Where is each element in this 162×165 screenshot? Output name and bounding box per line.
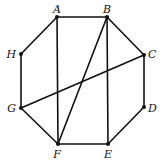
octagon-graph-diagram: ABCDEFGH (0, 0, 162, 165)
vertex-a-label: A (52, 3, 61, 16)
vertex-c-dot (142, 53, 146, 57)
vertex-g-dot (19, 106, 23, 110)
vertex-d-label: D (147, 102, 157, 115)
vertex-b-label: B (102, 3, 111, 16)
edge-g-c (21, 55, 144, 108)
vertex-f-dot (56, 142, 60, 146)
vertex-d-dot (142, 105, 146, 109)
edge-f-g (21, 108, 58, 144)
edge-h-a (21, 17, 57, 54)
edge-a-f (57, 17, 58, 144)
vertex-h-label: H (5, 48, 16, 61)
edge-d-e (108, 107, 144, 144)
edge-b-f (58, 17, 107, 144)
vertex-f-label: F (52, 148, 61, 161)
vertex-g-label: G (7, 102, 16, 115)
vertex-c-label: C (148, 48, 157, 61)
vertex-e-label: E (103, 148, 112, 161)
vertex-e-dot (106, 142, 110, 146)
edge-b-e (107, 17, 108, 144)
edge-b-c (107, 17, 144, 55)
edges-group (21, 17, 144, 144)
vertex-h-dot (19, 52, 23, 56)
